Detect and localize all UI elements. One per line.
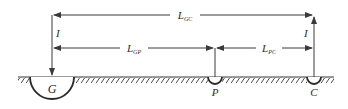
current-wire-right: I [303,17,314,77]
current-wire-left: I [52,15,61,75]
electrode-g: G [30,77,74,99]
dimension-l-pc: LPC [217,42,312,55]
dimension-label-l-gc: LGC [177,9,193,22]
dimension-l-gc: LGC [54,9,312,22]
electrode-label-p: P [211,86,219,98]
fall-of-potential-diagram: G P C I I LGC LGP [0,0,348,109]
current-label-left: I [55,27,61,39]
dimension-label-l-gp: LGP [126,42,141,55]
electrode-p: P [208,77,222,98]
dimension-l-gp: LGP [54,42,213,55]
electrode-label-c: C [310,86,318,98]
current-label-right: I [303,27,309,39]
electrode-c: C [307,77,321,98]
electrode-label-g: G [48,82,57,96]
dimension-label-l-pc: LPC [261,42,277,55]
